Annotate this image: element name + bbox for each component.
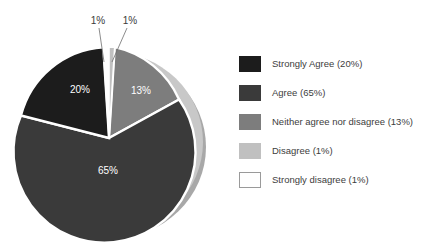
legend-item-strongly-disagree[interactable]: Strongly disagree (1%) — [239, 165, 444, 194]
legend-label-strongly-disagree: Strongly disagree (1%) — [272, 175, 369, 185]
legend-label-neither-agree-nor-disagree: Neither agree nor disagree (13%) — [272, 117, 413, 127]
pie-callout-label-disagree: 1% — [123, 15, 138, 26]
legend-swatch-strongly-agree — [239, 56, 261, 72]
legend: Strongly Agree (20%) Agree (65%) Neither… — [239, 49, 444, 194]
legend-swatch-strongly-disagree — [239, 172, 261, 188]
pie-chart-svg: 20% 65% 13% 1% 1% — [0, 0, 230, 248]
pie-label-neither: 13% — [131, 85, 151, 96]
legend-item-disagree[interactable]: Disagree (1%) — [239, 136, 444, 165]
legend-swatch-disagree — [239, 143, 261, 159]
pie-callout-label-strongly-disagree: 1% — [91, 15, 106, 26]
legend-item-neither-agree-nor-disagree[interactable]: Neither agree nor disagree (13%) — [239, 107, 444, 136]
legend-swatch-neither-agree-nor-disagree — [239, 114, 261, 130]
legend-swatch-agree — [239, 85, 261, 101]
legend-item-agree[interactable]: Agree (65%) — [239, 78, 444, 107]
legend-label-agree: Agree (65%) — [272, 88, 325, 98]
pie-label-strongly-agree: 20% — [70, 84, 90, 95]
pie-chart-area: 20% 65% 13% 1% 1% — [0, 0, 230, 248]
legend-label-disagree: Disagree (1%) — [272, 146, 333, 156]
legend-label-strongly-agree: Strongly Agree (20%) — [272, 59, 362, 69]
pie-label-agree: 65% — [98, 165, 118, 176]
legend-item-strongly-agree[interactable]: Strongly Agree (20%) — [239, 49, 444, 78]
